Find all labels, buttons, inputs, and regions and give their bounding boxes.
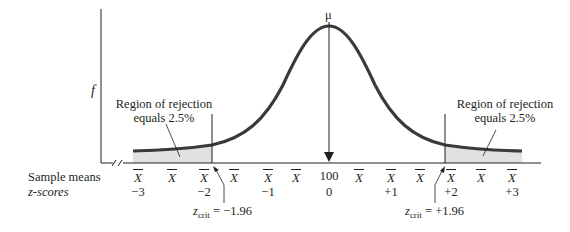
sample-mean-xbar: X	[227, 168, 241, 186]
sample-mean-xbar: X	[444, 168, 458, 186]
left-zcrit-subscript: crit	[198, 210, 210, 220]
left-zcrit-label: zcrit = −1.96	[193, 204, 252, 220]
sample-mean-xbar: X	[352, 168, 366, 186]
sample-means-row-label: Sample means	[28, 170, 101, 184]
normal-curve	[133, 26, 522, 151]
y-axis-label: f	[91, 84, 95, 98]
right-region-line1: Region of rejection	[450, 97, 560, 111]
z-score-value: +3	[497, 185, 527, 200]
z-score-value: 0	[314, 185, 344, 200]
z-score-value: +2	[436, 185, 466, 200]
right-region-label: Region of rejection equals 2.5%	[450, 97, 560, 125]
z-score-value: −3	[123, 185, 153, 200]
right-region-line2: equals 2.5%	[450, 111, 560, 125]
sample-mean-xbar: X	[384, 168, 398, 186]
right-zcrit-subscript: crit	[410, 210, 422, 220]
population-mean-value: 100	[314, 169, 344, 184]
z-scores-row-label: z-scores	[28, 185, 69, 199]
left-region-line1: Region of rejection	[114, 97, 214, 111]
axis-break-icon	[112, 160, 122, 166]
left-zcrit-arrow-icon	[213, 166, 219, 172]
left-region-line2: equals 2.5%	[114, 111, 214, 125]
sample-mean-xbar: X	[197, 168, 211, 186]
sample-mean-xbar: X	[289, 168, 303, 186]
sample-mean-xbar: X	[505, 168, 519, 186]
sample-mean-xbar: X	[261, 168, 275, 186]
right-zcrit-label: zcrit = +1.96	[405, 204, 464, 220]
z-score-value: +1	[376, 185, 406, 200]
left-zcrit-value: = −1.96	[210, 204, 252, 218]
sample-mean-xbar: X	[474, 168, 488, 186]
sample-mean-xbar: X	[131, 168, 145, 186]
mean-label: μ	[325, 8, 332, 22]
sample-mean-xbar: X	[165, 168, 179, 186]
z-score-value: −1	[253, 185, 283, 200]
mean-arrow-icon	[324, 152, 334, 162]
sample-mean-xbar: X	[413, 168, 427, 186]
right-zcrit-value: = +1.96	[422, 204, 464, 218]
z-score-value: −2	[189, 185, 219, 200]
left-region-label: Region of rejection equals 2.5%	[114, 97, 214, 125]
